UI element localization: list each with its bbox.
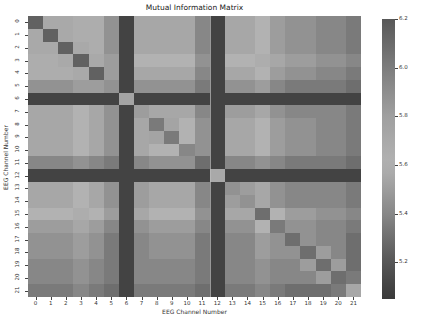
heatmap-cell [104,271,119,284]
heatmap-cell [331,284,346,297]
heatmap-cell [104,67,119,80]
heatmap-cell [119,169,134,182]
heatmap-cell [28,131,43,144]
heatmap-cell [149,54,164,67]
heatmap-cell [285,169,300,182]
heatmap-cell [270,54,285,67]
heatmap-cell [179,169,194,182]
heatmap-cell [285,220,300,233]
heatmap-cell [43,16,58,29]
heatmap-cell [179,271,194,284]
heatmap-cell [28,233,43,246]
heatmap-cell [331,67,346,80]
heatmap-cell [104,29,119,42]
x-tick-mark [293,297,294,300]
heatmap-cell [164,80,179,93]
heatmap-cell [285,208,300,221]
heatmap-cell [331,169,346,182]
heatmap-cell [28,42,43,55]
heatmap-cell [331,105,346,118]
heatmap-cell [300,29,315,42]
heatmap-cell [240,271,255,284]
heatmap-cell [346,156,361,169]
heatmap-cell [195,105,210,118]
heatmap-cell [210,54,225,67]
heatmap-cell [104,208,119,221]
y-tick-label: 15 [14,206,20,220]
heatmap-cell [331,246,346,259]
heatmap-cell [346,105,361,118]
heatmap-cell [149,105,164,118]
heatmap-cell [73,67,88,80]
heatmap-cell [270,105,285,118]
heatmap-cell [316,284,331,297]
heatmap-cell [240,54,255,67]
heatmap-cell [240,208,255,221]
heatmap-cell [346,93,361,106]
x-tick-mark [263,297,264,300]
heatmap-cell [73,105,88,118]
heatmap-cell [149,118,164,131]
heatmap-cell [225,54,240,67]
heatmap-cell [210,208,225,221]
heatmap-cell [225,182,240,195]
heatmap-cell [43,105,58,118]
x-tick-mark [353,297,354,300]
heatmap-cell [149,131,164,144]
colorbar-tick-mark [395,19,398,20]
heatmap-cell [89,118,104,131]
heatmap-cell [28,80,43,93]
heatmap-cell [210,284,225,297]
heatmap-cell [149,271,164,284]
heatmap-cell [89,259,104,272]
heatmap-cell [104,233,119,246]
heatmap-cell [164,42,179,55]
heatmap-cell [316,131,331,144]
x-tick-mark [111,297,112,300]
heatmap-cell [89,156,104,169]
heatmap-cell [210,16,225,29]
heatmap-cell [255,29,270,42]
heatmap-cell [316,169,331,182]
heatmap-cell [43,271,58,284]
heatmap-cell [89,144,104,157]
heatmap-cell [149,169,164,182]
heatmap-cell [195,144,210,157]
chart-title: Mutual Information Matrix [28,3,361,12]
y-tick-mark [25,201,28,202]
heatmap-cell [104,144,119,157]
heatmap-cell [255,131,270,144]
x-tick-label: 5 [104,300,118,306]
heatmap-cell [210,29,225,42]
heatmap-cell [28,156,43,169]
heatmap-cell [270,156,285,169]
heatmap-cell [119,131,134,144]
heatmap-cell [225,271,240,284]
heatmap-cell [255,118,270,131]
heatmap-cell [73,246,88,259]
heatmap-cell [285,16,300,29]
heatmap-cell [104,80,119,93]
heatmap-cell [195,67,210,80]
heatmap-cell [316,233,331,246]
heatmap-cell [210,118,225,131]
x-tick-mark [36,297,37,300]
heatmap-cell [164,16,179,29]
x-tick-label: 13 [225,300,239,306]
heatmap-cell [195,220,210,233]
heatmap-cell [43,144,58,157]
heatmap-cell [285,67,300,80]
heatmap-cell [89,105,104,118]
heatmap-cell [179,54,194,67]
heatmap-cell [104,195,119,208]
x-tick-label: 10 [180,300,194,306]
heatmap-cell [43,208,58,221]
heatmap-cell [179,144,194,157]
heatmap-cell [134,195,149,208]
heatmap-cell [89,233,104,246]
y-tick-mark [25,48,28,49]
heatmap-cell [179,118,194,131]
heatmap-cell [43,220,58,233]
heatmap-cell [300,156,315,169]
heatmap-cell [28,16,43,29]
